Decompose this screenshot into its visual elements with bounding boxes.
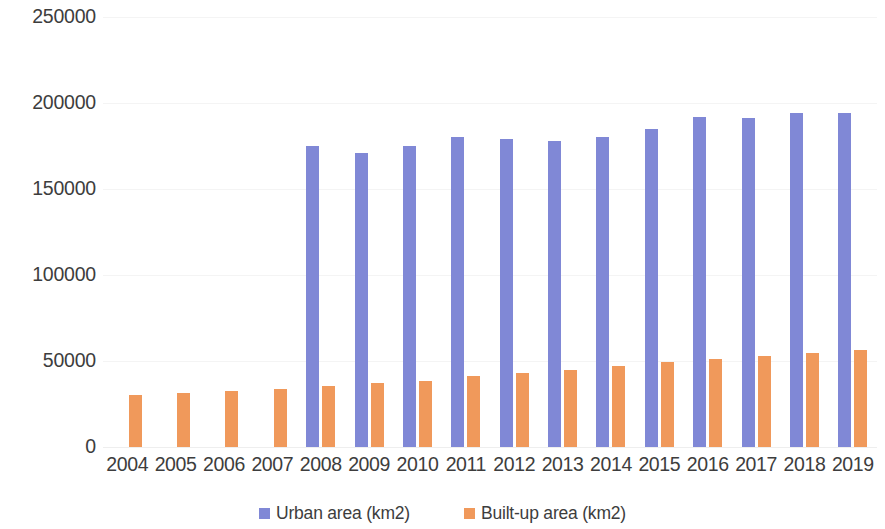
bar-built-up-2009 [371, 383, 384, 447]
bar-built-up-2019 [854, 350, 867, 447]
bar-built-up-2018 [806, 353, 819, 447]
x-axis-tick-label: 2008 [297, 452, 345, 476]
y-axis-tick-label: 150000 [0, 179, 96, 199]
bar-built-up-2016 [709, 359, 722, 447]
legend-swatch-urban [259, 508, 270, 519]
y-axis-tick-label: 200000 [0, 93, 96, 113]
bar-built-up-2015 [661, 362, 674, 447]
bar-built-up-2006 [225, 391, 238, 447]
x-axis-tick-label: 2006 [200, 452, 248, 476]
bar-urban-2009 [355, 153, 368, 447]
legend-item[interactable]: Built-up area (km2) [464, 503, 626, 523]
bar-urban-2008 [306, 146, 319, 447]
x-axis-tick-label: 2019 [829, 452, 877, 476]
x-axis-tick-label: 2015 [635, 452, 683, 476]
y-axis-tick-label: 50000 [0, 351, 96, 371]
bar-urban-2015 [645, 129, 658, 447]
bar-built-up-2007 [274, 389, 287, 448]
legend-item-label: Urban area (km2) [276, 503, 410, 523]
legend-item[interactable]: Urban area (km2) [259, 503, 410, 523]
x-axis-tick-label: 2009 [345, 452, 393, 476]
bar-urban-2014 [596, 137, 609, 447]
x-axis-tick-label: 2010 [393, 452, 441, 476]
x-axis-tick-label: 2016 [684, 452, 732, 476]
x-axis-tick-label: 2011 [442, 452, 490, 476]
x-axis-tick-label: 2004 [103, 452, 151, 476]
bar-urban-2019 [838, 113, 851, 447]
y-axis-tick-label: 0 [0, 437, 96, 457]
bar-urban-2012 [500, 139, 513, 447]
x-axis-tick-label: 2014 [587, 452, 635, 476]
x-axis-tick-label: 2017 [732, 452, 780, 476]
bar-built-up-2011 [467, 376, 480, 447]
bar-built-up-2005 [177, 393, 190, 447]
x-axis-tick-label: 2005 [151, 452, 199, 476]
bar-built-up-2014 [612, 366, 625, 447]
bar-built-up-2013 [564, 370, 577, 447]
legend-swatch-built-up [464, 508, 475, 519]
y-axis-tick-label: 100000 [0, 265, 96, 285]
bar-built-up-2017 [758, 356, 771, 447]
legend-item-label: Built-up area (km2) [481, 503, 626, 523]
x-axis-tick-label: 2018 [780, 452, 828, 476]
bar-built-up-2012 [516, 373, 529, 447]
bar-built-up-2008 [322, 386, 335, 447]
bars-layer [103, 0, 877, 448]
bar-chart: 250000200000150000100000500000 200420052… [0, 0, 885, 529]
bar-urban-2017 [742, 118, 755, 447]
bar-built-up-2010 [419, 381, 432, 447]
x-axis-tick-label: 2013 [538, 452, 586, 476]
x-axis: 2004200520062007200820092010201120122013… [103, 452, 877, 482]
bar-urban-2011 [451, 137, 464, 447]
chart-legend: Urban area (km2)Built-up area (km2) [0, 500, 885, 526]
bar-urban-2013 [548, 141, 561, 447]
bar-urban-2018 [790, 113, 803, 447]
bar-built-up-2004 [129, 395, 142, 447]
y-axis: 250000200000150000100000500000 [0, 0, 96, 470]
y-axis-tick-label: 250000 [0, 7, 96, 27]
bar-urban-2010 [403, 146, 416, 447]
x-axis-tick-label: 2007 [248, 452, 296, 476]
bar-urban-2016 [693, 117, 706, 447]
x-axis-tick-label: 2012 [490, 452, 538, 476]
